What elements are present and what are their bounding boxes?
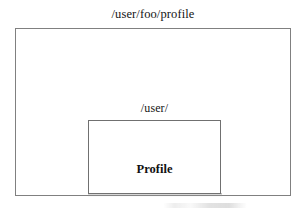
diagram-canvas: /user/foo/profile /user/ Profile — [0, 0, 306, 214]
scan-smudge-artifact — [163, 203, 247, 208]
scan-shadow-artifact — [88, 193, 222, 197]
inner-box-content-label: Profile — [89, 162, 220, 177]
inner-box-label: /user/ — [88, 101, 221, 116]
inner-route-box: Profile — [88, 120, 221, 194]
outer-box-label: /user/foo/profile — [0, 7, 306, 22]
